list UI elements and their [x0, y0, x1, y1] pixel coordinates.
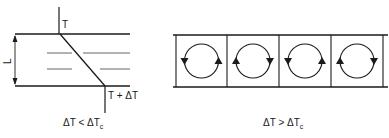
arrow-down-icon: [266, 58, 274, 65]
arrow-up-icon: [215, 57, 223, 64]
convection-condition-label: ΔT > ΔTc: [263, 117, 304, 130]
arrow-up-icon: [336, 57, 344, 64]
conduction-condition-label: ΔT < ΔTc: [63, 117, 104, 130]
condition-subscript: c: [100, 123, 104, 130]
arrow-down-icon: [370, 58, 378, 65]
arrow-down-icon: [284, 58, 292, 65]
condition-text: ΔT < ΔT: [63, 117, 100, 128]
convection-diagram: T T + ΔT L ΔT < ΔTc: [0, 0, 389, 138]
top-temperature-label: T: [62, 19, 68, 30]
arrow-up-icon: [318, 57, 326, 64]
convection-panel: [173, 35, 388, 87]
convection-cell-1: [181, 44, 223, 78]
convection-cell-3: [284, 44, 326, 78]
condition-text: ΔT > ΔT: [263, 117, 300, 128]
condition-subscript: c: [300, 123, 304, 130]
arrow-up-icon: [232, 57, 240, 64]
dimension-arrow-down-icon: [13, 78, 18, 85]
convection-cell-4: [336, 44, 378, 78]
convection-cell-2: [232, 44, 274, 78]
temperature-profile-line: [60, 34, 105, 86]
bottom-temperature-label: T + ΔT: [108, 90, 138, 101]
height-label: L: [2, 58, 13, 64]
arrow-down-icon: [181, 58, 189, 65]
dimension-arrow-up-icon: [13, 35, 18, 42]
